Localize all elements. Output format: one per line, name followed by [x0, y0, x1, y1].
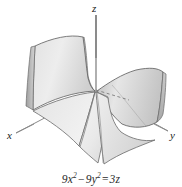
caption-rhs-var: z: [116, 173, 121, 185]
caption-equation: 9x2−9y2=3z: [62, 173, 120, 185]
x-axis-tip: [16, 124, 34, 133]
y-axis-label: y: [169, 129, 175, 141]
caption-equals: =: [101, 173, 110, 185]
y-axis-tip: [154, 124, 168, 131]
surface-plot: x y z: [0, 0, 182, 187]
x-axis-label: x: [6, 129, 12, 141]
figure-caption: 9x2−9y2=3z: [0, 170, 182, 186]
z-axis-label: z: [91, 2, 97, 14]
caption-minus: −: [77, 173, 86, 185]
figure-container: x y z 9x2−9y2=3z: [0, 0, 182, 187]
